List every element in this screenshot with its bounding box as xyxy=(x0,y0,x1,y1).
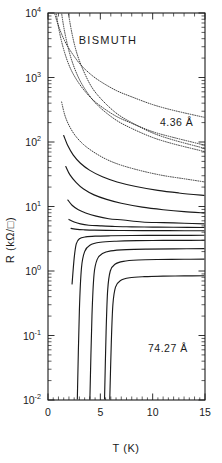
data-curves xyxy=(49,0,205,400)
annotation-top-thickness: 4.36 Å xyxy=(160,116,193,128)
x-tick-label: 15 xyxy=(199,406,211,418)
y-tick-label: 10-1 xyxy=(23,328,41,342)
x-tick-label: 0 xyxy=(45,406,51,418)
y-tick-label: 102 xyxy=(25,134,41,148)
plot-title: BISMUTH xyxy=(79,34,138,46)
curve-5 xyxy=(62,102,205,182)
y-tick-label: 104 xyxy=(25,5,41,19)
y-tick-label: 101 xyxy=(25,199,41,213)
y-tick-label: 10-2 xyxy=(23,392,41,406)
curve-7 xyxy=(66,167,205,213)
plot-canvas: 10410310210110010-110-2 051015 T (K) R (… xyxy=(0,0,222,463)
x-tick-label: 5 xyxy=(97,406,103,418)
x-axis-title: T (K) xyxy=(112,442,139,454)
annotation-bottom-thickness: 74.27 Å xyxy=(148,342,188,354)
y-tick-label: 103 xyxy=(25,70,41,84)
curve-6 xyxy=(64,136,205,196)
bismuth-resistance-figure: 10410310210110010-110-2 051015 T (K) R (… xyxy=(0,0,222,463)
y-axis-title: R (kΩ/□) xyxy=(4,217,16,264)
curve-10 xyxy=(71,228,205,230)
y-tick-label: 100 xyxy=(25,263,41,277)
curve-12 xyxy=(77,240,205,400)
curve-14 xyxy=(105,259,205,400)
x-tick-label: 10 xyxy=(147,406,159,418)
curve-13 xyxy=(90,249,205,400)
curve-1 xyxy=(49,0,205,117)
y-axis-tick-labels: 10410310210110010-110-2 xyxy=(23,5,41,406)
curve-3 xyxy=(57,0,205,152)
x-axis-tick-labels: 051015 xyxy=(45,406,211,418)
curve-15 xyxy=(110,276,205,400)
